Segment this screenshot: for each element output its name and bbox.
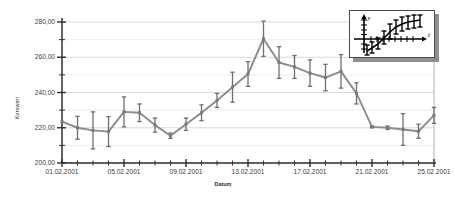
data-point: [340, 70, 343, 73]
x-tick-label: 01.02.2001: [32, 168, 92, 175]
y-axis-title: Kurswert: [14, 18, 20, 78]
y-tick-label: 220,00: [13, 124, 55, 131]
data-point: [61, 120, 64, 123]
data-point: [355, 92, 358, 95]
data-point: [154, 124, 157, 127]
data-point: [200, 111, 203, 114]
data-point: [402, 128, 405, 131]
data-point: [324, 76, 327, 79]
chart-thumbnail-icon: y t: [349, 10, 439, 62]
data-point: [123, 110, 126, 113]
x-tick-label: 25.02.2001: [404, 168, 455, 175]
data-point: [417, 130, 420, 133]
x-tick-label: 21.02.2001: [342, 168, 402, 175]
data-point: [247, 72, 250, 75]
thumbnail-y-label: y: [367, 14, 372, 22]
y-tick-label: 260,00: [13, 53, 55, 60]
thumbnail-diagram: y t: [350, 11, 434, 57]
thumbnail-frame: y t: [349, 10, 435, 58]
data-point: [169, 134, 172, 137]
x-axis-title: Datum: [0, 181, 446, 187]
thumbnail-x-label: t: [428, 31, 431, 39]
data-point: [262, 37, 265, 40]
data-point: [278, 61, 281, 64]
y-tick-label: 280,00: [13, 18, 55, 25]
data-point: [231, 86, 234, 89]
data-point: [216, 99, 219, 102]
x-tick-label: 17.02.2001: [280, 168, 340, 175]
data-point: [309, 72, 312, 75]
data-point: [433, 114, 436, 117]
data-point: [386, 126, 389, 129]
x-tick-label: 13.02.2001: [218, 168, 278, 175]
data-point: [185, 123, 188, 126]
data-point: [371, 125, 374, 128]
data-point: [107, 130, 110, 133]
data-point: [138, 111, 141, 114]
y-tick-label: 200,00: [13, 159, 55, 166]
data-point: [76, 126, 79, 129]
data-point: [293, 65, 296, 68]
y-tick-label: 240,00: [13, 89, 55, 96]
x-tick-label: 05.02.2001: [94, 168, 154, 175]
x-tick-label: 09.02.2001: [156, 168, 216, 175]
data-point: [92, 129, 95, 132]
